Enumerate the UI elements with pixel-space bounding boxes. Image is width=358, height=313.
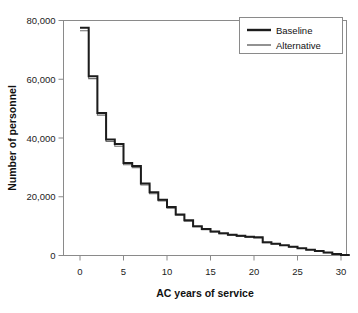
chart-title [44, 0, 334, 3]
x-tick-label: 25 [292, 266, 303, 277]
y-tick-label: 40,000 [26, 133, 55, 144]
legend-label-baseline: Baseline [276, 25, 312, 36]
x-tick-label: 0 [77, 266, 82, 277]
chart-container: 020,00040,00060,00080,000 051015202530 B… [0, 0, 358, 313]
x-axis: 051015202530 [77, 256, 346, 277]
x-axis-title: AC years of service [156, 287, 254, 299]
y-axis: 020,00040,00060,00080,000 [26, 15, 63, 261]
x-tick-label: 5 [121, 266, 126, 277]
y-axis-title: Number of personnel [6, 85, 18, 191]
y-tick-label: 80,000 [26, 15, 55, 26]
x-tick-label: 10 [162, 266, 173, 277]
y-tick-label: 20,000 [26, 191, 55, 202]
chart-legend: BaselineAlternative [240, 18, 343, 54]
y-tick-label: 0 [50, 250, 55, 261]
x-tick-label: 30 [336, 266, 347, 277]
y-tick-label: 60,000 [26, 74, 55, 85]
x-tick-label: 15 [205, 266, 216, 277]
legend-label-alternative: Alternative [276, 40, 321, 51]
x-tick-label: 20 [249, 266, 260, 277]
chart-svg: 020,00040,00060,00080,000 051015202530 B… [0, 0, 358, 313]
